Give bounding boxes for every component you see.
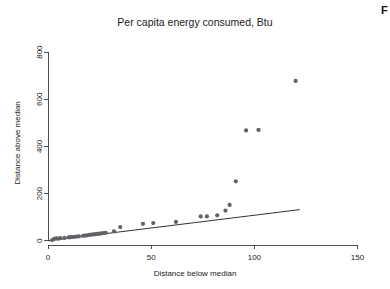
y-tick-label: 200: [35, 186, 44, 200]
data-point: [256, 128, 260, 132]
figure-corner-label: F: [381, 4, 388, 16]
data-point: [228, 203, 232, 207]
x-tick-label: 0: [46, 253, 51, 262]
y-axis-label: Distance above median: [13, 101, 22, 185]
x-tick-label: 50: [147, 253, 156, 262]
figure-container: Per capita energy consumed, Btu F 020040…: [0, 0, 390, 289]
y-tick-label: 800: [35, 45, 44, 59]
data-point: [294, 79, 298, 83]
x-tick-label: 150: [351, 253, 365, 262]
data-point: [58, 236, 62, 240]
y-tick-label: 0: [35, 238, 44, 243]
data-point: [215, 213, 219, 217]
data-point: [199, 214, 203, 218]
data-point: [141, 222, 145, 226]
data-point: [118, 225, 122, 229]
data-point: [104, 231, 108, 235]
x-tick-label: 100: [248, 253, 262, 262]
data-point: [205, 214, 209, 218]
x-axis-label: Distance below median: [154, 269, 237, 278]
data-point: [77, 234, 81, 238]
data-point: [174, 220, 178, 224]
scatter-plot: Per capita energy consumed, Btu F 020040…: [0, 0, 390, 289]
data-point: [151, 221, 155, 225]
y-tick-label: 600: [35, 92, 44, 106]
data-point: [112, 229, 116, 233]
y-tick-label: 400: [35, 139, 44, 153]
data-point: [244, 128, 248, 132]
chart-title: Per capita energy consumed, Btu: [117, 16, 272, 28]
data-point: [223, 208, 227, 212]
plot-background: [0, 0, 390, 289]
data-point: [234, 179, 238, 183]
data-point: [62, 236, 66, 240]
